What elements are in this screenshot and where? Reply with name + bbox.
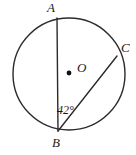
- angle-label-abc: 42°: [57, 104, 74, 116]
- point-label-a: A: [47, 1, 55, 14]
- chord-bc: [58, 56, 117, 131]
- point-label-c: C: [121, 41, 130, 54]
- center-point-label-o: O: [77, 61, 86, 74]
- point-label-b: B: [52, 136, 60, 149]
- center-point-dot: [67, 71, 72, 76]
- geometry-canvas: [0, 0, 136, 155]
- geometry-figure: A B C O 42°: [0, 0, 136, 155]
